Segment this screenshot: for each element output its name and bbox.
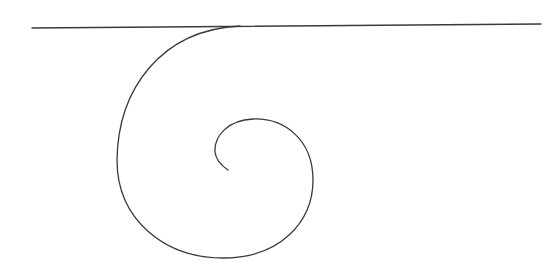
diagram-canvas: [0, 0, 560, 272]
spiral-curve: [117, 26, 313, 258]
tangent-line: [32, 24, 541, 28]
